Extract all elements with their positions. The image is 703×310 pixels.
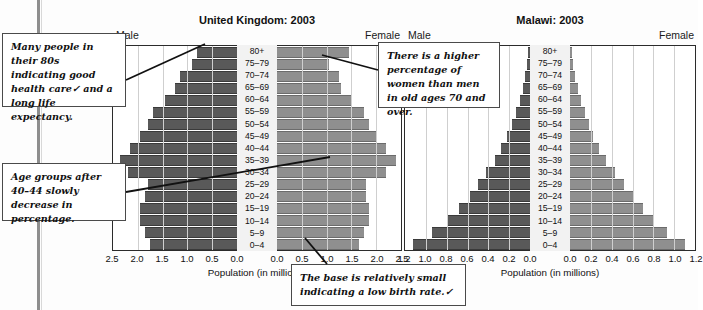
bar-male (523, 83, 530, 94)
cropped-header-text (48, 0, 348, 8)
age-group-label: 65–69 (530, 81, 570, 93)
x-tick-label: 0.0 (230, 253, 243, 264)
age-group-label: 25–29 (530, 178, 570, 190)
age-group-label: 70–74 (237, 69, 277, 81)
bar-male (512, 119, 530, 130)
age-group-label: 0–4 (530, 239, 570, 251)
gridline (509, 46, 510, 250)
bar-female (277, 239, 359, 250)
gridline (327, 46, 328, 250)
bar-row-male (113, 94, 237, 106)
age-group-label: 75–79 (237, 57, 277, 69)
bar-row-female (277, 214, 401, 226)
x-tick-label: 2.0 (130, 253, 143, 264)
age-group-label: 5–9 (237, 227, 277, 239)
chart-title-malawi: Malawi: 2003 (404, 14, 696, 26)
age-group-label: 15–19 (237, 203, 277, 215)
bar-male (140, 131, 237, 142)
bar-female (570, 119, 589, 130)
bar-female (277, 71, 339, 82)
bar-female (277, 83, 341, 94)
bar-male (197, 47, 237, 58)
age-group-label: 60–64 (530, 94, 570, 106)
age-group-label: 45–49 (530, 130, 570, 142)
bar-male (140, 215, 237, 226)
bar-female (570, 107, 585, 118)
bar-male (459, 203, 530, 214)
age-group-label: 50–54 (237, 118, 277, 130)
x-tick-label: 1.0 (668, 253, 681, 264)
bar-row-female (277, 202, 401, 214)
chart-title-uk: United Kingdom: 2003 (112, 14, 402, 26)
age-group-label: 45–49 (237, 130, 277, 142)
x-tick-label: 1.2 (397, 253, 410, 264)
age-group-label: 80+ (237, 45, 277, 57)
bar-female (570, 131, 593, 142)
bar-female (570, 95, 581, 106)
bar-female (277, 215, 369, 226)
bars-male-uk (113, 46, 237, 250)
bar-male (495, 155, 530, 166)
bar-female (277, 191, 366, 202)
age-group-label: 60–64 (237, 94, 277, 106)
bar-male (130, 143, 237, 154)
bar-female (277, 167, 386, 178)
x-tick-label: 1.0 (320, 253, 333, 264)
bar-male (413, 239, 530, 250)
x-tick-label: 0.6 (626, 253, 639, 264)
legend-label-female-uk: Female (365, 29, 400, 41)
age-group-label: 15–19 (530, 203, 570, 215)
bar-female (570, 155, 606, 166)
bar-male (175, 83, 237, 94)
bar-row-male (113, 154, 237, 166)
bar-female (277, 143, 386, 154)
bar-row-female (277, 166, 401, 178)
age-group-label: 35–39 (237, 154, 277, 166)
x-tick-label: 2.0 (370, 253, 383, 264)
age-group-label: 55–59 (237, 106, 277, 118)
age-group-label: 55–59 (530, 106, 570, 118)
age-group-label: 75–79 (530, 57, 570, 69)
age-group-label: 20–24 (530, 191, 570, 203)
bar-female (570, 59, 573, 70)
bar-row-male (113, 58, 237, 70)
x-tick-label: 1.5 (155, 253, 168, 264)
chart-panel-united-kingdom: United Kingdom: 2003 Male Female 80+75–7… (112, 14, 402, 276)
gridline (302, 46, 303, 250)
bar-row-male (113, 130, 237, 142)
age-group-label: 50–54 (530, 118, 570, 130)
x-tick-label: 1.0 (418, 253, 431, 264)
bar-female (277, 119, 369, 130)
x-tick-label: 1.5 (345, 253, 358, 264)
bar-row-male (113, 202, 237, 214)
x-tick-label: 1.2 (689, 253, 702, 264)
age-group-axis-malawi: 80+75–7970–7465–6960–6455–5950–5445–4940… (530, 45, 570, 251)
bar-male (128, 167, 237, 178)
bar-row-male (113, 226, 237, 238)
bar-male (507, 131, 530, 142)
bar-female (277, 59, 329, 70)
age-group-axis-uk: 80+75–7970–7465–6960–6455–5950–5445–4940… (237, 45, 277, 251)
bar-male (192, 59, 237, 70)
bar-female (570, 47, 572, 58)
gridline (187, 46, 188, 250)
annotation-note-age-decline: Age groups after 40–44 slowly decrease i… (2, 163, 126, 221)
age-group-label: 40–44 (530, 142, 570, 154)
bar-female (277, 47, 349, 58)
x-tick-label: 0.6 (460, 253, 473, 264)
plot-half-female-malawi (570, 45, 696, 251)
x-tick-label: 0.2 (584, 253, 597, 264)
bar-female (277, 203, 369, 214)
gridline (212, 46, 213, 250)
bar-male (470, 191, 530, 202)
bar-row-male (113, 238, 237, 250)
age-group-label: 30–34 (237, 166, 277, 178)
bar-row-female (277, 178, 401, 190)
age-group-label: 20–24 (237, 191, 277, 203)
x-tick-label: 0.4 (605, 253, 618, 264)
x-tick-label: 0.0 (270, 253, 283, 264)
x-ticks-left-uk: 2.52.01.51.00.50.0 (112, 253, 237, 267)
bar-male (153, 107, 237, 118)
bar-female (570, 167, 615, 178)
